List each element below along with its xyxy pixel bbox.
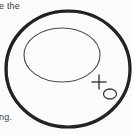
cross-marker-icon [92, 75, 107, 90]
figure-canvas: e the ng. [0, 0, 133, 134]
text-fragment-bottom-left: ng. [0, 112, 12, 122]
outer-ellipse-ink-overlay [7, 12, 130, 127]
text-fragment-top-left: e the [0, 1, 20, 11]
small-circle-marker [104, 89, 117, 99]
inner-ellipse [24, 28, 100, 82]
diagram-illustration [0, 0, 133, 134]
